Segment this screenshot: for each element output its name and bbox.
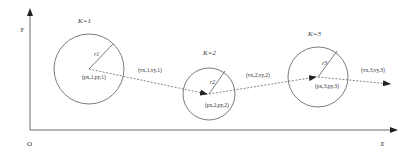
x-axis [30,127,398,133]
radius-k1 [89,44,113,69]
center-label-k2: (px,2,py,2) [205,103,229,109]
center-label-k1: (px,1,py,1) [82,75,106,81]
radius-label-k3: r3 [322,60,327,66]
x-axis-arrow-icon [390,127,398,133]
step-label-k3: K=3 [308,31,321,38]
radius-label-k2: r2 [210,79,215,85]
velocity-label-k2: (vx,2,vy,2) [246,73,270,79]
trajectory-diagram: Y O X K=1 r1 (px,1,py,1) (vx,1,vy,1) K=2… [0,0,416,157]
radius-label-k1: r1 [94,51,99,57]
center-label-k3: (px,3,py,3) [315,84,339,90]
y-axis-label: Y [20,27,24,34]
velocity-label-k1: (vx,1,vy,1) [138,68,162,74]
radius-k3 [318,51,337,77]
y-axis-arrow-icon [27,8,33,16]
velocity-label-k3: (vx,3,vy,3) [361,68,385,74]
trajectory-segment-2 [209,77,316,94]
step-label-k2: K=2 [203,50,216,57]
step-label-k1: K=1 [78,18,91,25]
y-axis [27,8,33,130]
diagram-graphics [0,0,416,157]
origin-label: O [27,141,32,148]
x-axis-label: X [380,141,384,148]
